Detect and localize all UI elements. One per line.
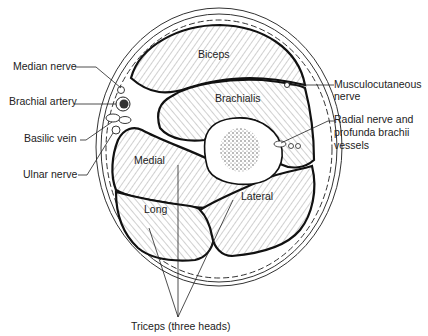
radial-nerve-label-line1: Radial nerve and bbox=[334, 113, 414, 125]
ulnar-nerve-structure bbox=[112, 126, 120, 134]
humerus-bone bbox=[205, 118, 283, 184]
median-nerve-leader bbox=[75, 67, 121, 88]
musculocutaneous-label-line2: nerve bbox=[334, 90, 360, 102]
brachial-artery-label: Brachial artery bbox=[9, 95, 77, 107]
profunda-brachii-artery bbox=[289, 144, 294, 149]
brachialis-label: Brachialis bbox=[215, 92, 261, 104]
arm-cross-section-diagram: Biceps Brachialis Medial Long Lateral Me… bbox=[0, 0, 428, 336]
long-label: Long bbox=[144, 203, 168, 215]
profunda-brachii-vein bbox=[296, 144, 301, 149]
triceps-label: Triceps (three heads) bbox=[131, 320, 230, 332]
musculocutaneous-nerve-structure bbox=[285, 83, 290, 88]
radial-nerve-label-line2: profunda brachii bbox=[334, 126, 409, 138]
ulnar-nerve-label: Ulnar nerve bbox=[23, 168, 77, 180]
biceps-label: Biceps bbox=[198, 48, 230, 60]
lateral-label: Lateral bbox=[241, 190, 273, 202]
musculocutaneous-label-line1: Musculocutaneous bbox=[334, 78, 422, 90]
neurovascular-bundle-medial bbox=[106, 87, 131, 135]
median-nerve-label: Median nerve bbox=[13, 60, 77, 72]
medial-label: Medial bbox=[134, 154, 165, 166]
medullary-cavity bbox=[220, 128, 260, 172]
radial-nerve-label-line3: vessels bbox=[334, 139, 369, 151]
basilic-vein-label: Basilic vein bbox=[24, 132, 77, 144]
basilic-vein-structure bbox=[106, 114, 120, 122]
brachial-artery-lumen bbox=[120, 100, 129, 109]
venae-comitantes bbox=[119, 117, 131, 124]
